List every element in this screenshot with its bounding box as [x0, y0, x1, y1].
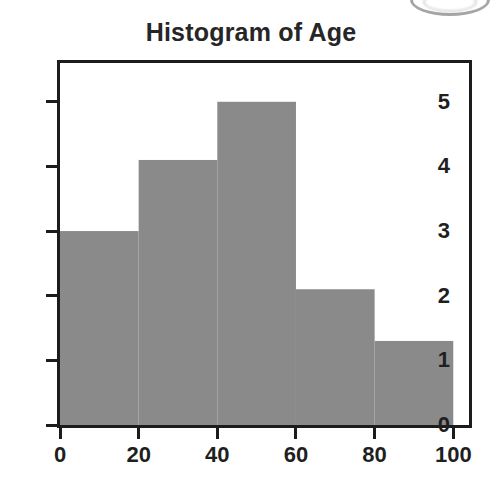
y-axis-tick-label: 5: [420, 91, 450, 113]
x-axis-tick: [294, 428, 297, 439]
scan-edge-artifact-secondary-icon: [423, 0, 477, 12]
scan-edge-artifact-icon: [410, 0, 490, 16]
histogram-bar: [296, 289, 375, 425]
y-axis-tick-label: 4: [420, 155, 450, 177]
y-axis-tick: [46, 230, 57, 233]
x-axis-tick: [137, 428, 140, 439]
y-axis-tick-label: 3: [420, 220, 450, 242]
y-axis-tick-label: 0: [420, 414, 450, 436]
histogram-bar: [139, 160, 218, 425]
histogram-bar: [217, 102, 296, 425]
x-axis-tick-label: 80: [345, 444, 405, 466]
x-axis-tick-label: 100: [423, 444, 483, 466]
x-axis-tick: [452, 428, 455, 439]
x-axis-tick-label: 60: [266, 444, 326, 466]
y-axis-tick: [46, 294, 57, 297]
histogram-bar: [60, 231, 139, 425]
y-axis-tick-label: 2: [420, 285, 450, 307]
y-axis-tick: [46, 165, 57, 168]
x-axis-tick-label: 20: [109, 444, 169, 466]
y-axis-tick-label: 1: [420, 349, 450, 371]
x-axis-tick-label: 40: [187, 444, 247, 466]
y-axis-tick: [46, 424, 57, 427]
y-axis-tick: [46, 359, 57, 362]
x-axis-tick-label: 0: [30, 444, 90, 466]
plot-area: [57, 60, 472, 428]
histogram-bars: [60, 63, 469, 425]
histogram-figure: Histogram of Age 012345 020406080100: [0, 0, 502, 497]
x-axis-tick: [59, 428, 62, 439]
y-axis-tick: [46, 100, 57, 103]
chart-title: Histogram of Age: [0, 18, 502, 47]
x-axis-tick: [216, 428, 219, 439]
x-axis-tick: [373, 428, 376, 439]
